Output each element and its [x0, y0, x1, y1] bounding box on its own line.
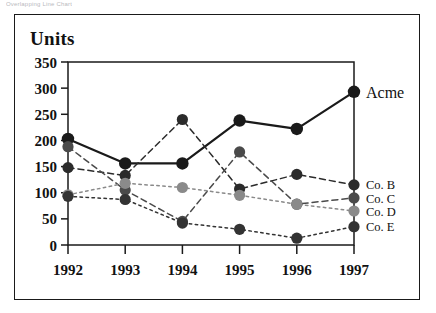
y-axis-tick-label: 150: [35, 159, 58, 175]
y-axis-tick-label: 100: [35, 185, 58, 201]
data-point[interactable]: [120, 194, 131, 205]
legend-label-co-e: Co. E: [366, 220, 395, 234]
series-line: [68, 196, 354, 238]
data-point[interactable]: [348, 221, 359, 232]
data-point[interactable]: [234, 190, 245, 201]
data-point[interactable]: [62, 191, 73, 202]
y-axis-tick-label: 350: [35, 55, 58, 71]
line-chart: 3503002502001501005001992199319941995199…: [0, 0, 436, 313]
series-acme: [68, 92, 354, 164]
series-line: [68, 92, 354, 164]
y-axis-tick-label: 50: [42, 211, 57, 227]
y-axis-tick-label: 200: [35, 133, 58, 149]
data-point[interactable]: [234, 146, 245, 157]
data-point[interactable]: [120, 178, 131, 189]
series-markers-co-d: [62, 178, 359, 217]
chart-canvas: 3503002502001501005001992199319941995199…: [0, 0, 436, 313]
legend-label-acme: Acme: [366, 84, 404, 101]
data-point[interactable]: [348, 179, 359, 190]
x-axis-tick-label: 1993: [110, 262, 140, 278]
y-axis-tick-label: 0: [50, 238, 58, 254]
data-point[interactable]: [177, 114, 188, 125]
data-point[interactable]: [62, 162, 73, 173]
y-axis-tick-label: 250: [35, 107, 58, 123]
series-co-e: [68, 196, 354, 238]
data-point[interactable]: [177, 217, 188, 228]
data-point[interactable]: [291, 123, 303, 135]
y-axis-tick-label: 300: [35, 81, 58, 97]
x-axis-tick-label: 1997: [339, 262, 370, 278]
legend-label-co-b: Co. B: [366, 178, 395, 192]
data-point[interactable]: [348, 205, 359, 216]
data-point[interactable]: [234, 224, 245, 235]
legend-label-co-d: Co. D: [366, 205, 396, 219]
x-axis-tick-label: 1995: [225, 262, 255, 278]
data-point[interactable]: [348, 86, 360, 98]
data-point[interactable]: [291, 233, 302, 244]
data-point[interactable]: [62, 141, 73, 152]
data-point[interactable]: [291, 169, 302, 180]
data-point[interactable]: [177, 182, 188, 193]
data-point[interactable]: [176, 157, 188, 169]
x-axis-tick-label: 1996: [282, 262, 313, 278]
data-point[interactable]: [348, 192, 359, 203]
legend-label-co-c: Co. C: [366, 192, 395, 206]
series-markers-acme: [62, 86, 360, 170]
x-axis-tick-label: 1994: [167, 262, 198, 278]
data-point[interactable]: [291, 199, 302, 210]
data-point[interactable]: [233, 114, 245, 126]
x-axis-tick-label: 1992: [53, 262, 83, 278]
data-point[interactable]: [119, 157, 131, 169]
